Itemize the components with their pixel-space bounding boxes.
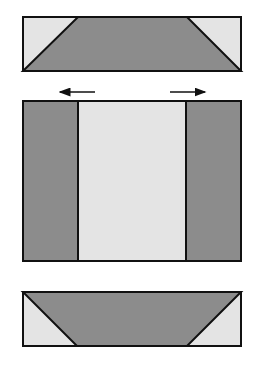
bottom-panel bbox=[23, 292, 241, 346]
middle-left-band bbox=[23, 101, 78, 261]
top-panel bbox=[23, 17, 241, 71]
middle-panel bbox=[23, 101, 241, 261]
diagram-canvas bbox=[0, 0, 267, 374]
middle-right-band bbox=[186, 101, 241, 261]
